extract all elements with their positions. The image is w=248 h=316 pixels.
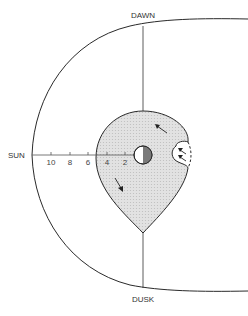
tick-label-10: 10 — [47, 158, 56, 167]
dusk-label: DUSK — [132, 295, 155, 304]
tick-label-6: 6 — [86, 158, 91, 167]
bulge-arrow-2 — [178, 155, 186, 161]
magnetosphere-diagram: 10 8 6 4 2 DAWN DUSK SUN — [0, 0, 248, 316]
earth-icon — [134, 146, 152, 164]
plasmapause-dashed-edge — [188, 142, 191, 168]
dawn-label: DAWN — [131, 11, 155, 20]
tick-label-2: 2 — [123, 158, 128, 167]
plasmasphere-region — [96, 111, 188, 233]
tick-label-4: 4 — [105, 158, 110, 167]
tick-label-8: 8 — [68, 158, 73, 167]
bulge-arrow-1 — [178, 148, 186, 154]
sun-label: SUN — [8, 151, 25, 160]
